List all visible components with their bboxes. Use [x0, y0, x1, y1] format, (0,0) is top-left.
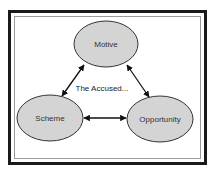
node-opportunity-label: Opportunity: [139, 115, 180, 124]
edge-motive-opportunity: [127, 65, 149, 97]
node-opportunity: Opportunity: [127, 96, 193, 142]
node-motive: Motive: [74, 21, 138, 67]
node-scheme: Scheme: [17, 95, 83, 141]
center-label: The Accused...: [76, 84, 129, 93]
node-scheme-label: Scheme: [35, 114, 65, 123]
node-motive-label: Motive: [94, 40, 118, 49]
relationship-diagram: Motive Scheme Opportunity The Accused...: [0, 0, 213, 170]
